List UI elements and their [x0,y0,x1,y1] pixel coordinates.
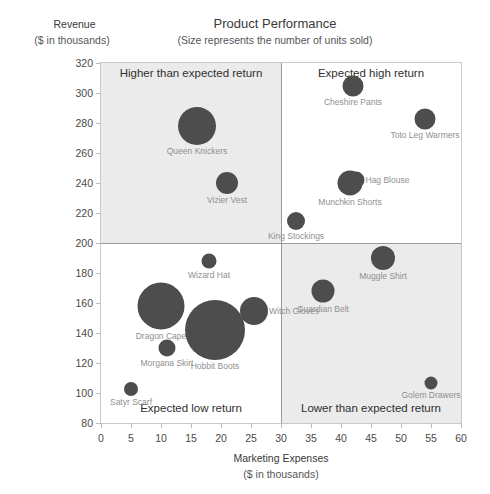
x-axis-tick-label: 45 [365,432,377,444]
bubble-label: Hobbit Boots [191,361,240,371]
quadrant-divider-horizontal [101,243,461,244]
y-axis-tick [96,213,101,214]
y-axis-tick [96,183,101,184]
y-axis-tick-label: 100 [75,387,93,399]
bubble-point[interactable] [159,340,176,357]
bubble-label: Morgana Skirt [141,358,194,368]
bubble-point[interactable] [216,172,238,194]
chart-title: Product Performance [150,16,400,31]
bubble-point[interactable] [240,297,268,325]
bubble-label: Witch Gloves [269,306,319,316]
x-axis-tick-label: 10 [155,432,167,444]
y-axis-title: Revenue [22,18,127,30]
x-axis-tick [311,423,312,428]
bubble-label: King Stockings [268,231,324,241]
bubble-label: Queen Knickers [167,146,227,156]
x-axis-tick [371,423,372,428]
bubble-label: Vizier Vest [207,195,247,205]
quadrant-top-right [281,63,461,243]
x-axis-tick [101,423,102,428]
y-axis-subtitle: ($ in thousands) [12,34,132,46]
bubble-point[interactable] [202,254,217,269]
y-axis-tick [96,393,101,394]
y-axis-tick-label: 300 [75,87,93,99]
x-axis-tick-label: 50 [395,432,407,444]
y-axis-tick [96,363,101,364]
bubble-label: Golem Drawers [401,390,460,400]
bubble-label: Satyr Scarf [110,397,152,407]
y-axis-tick-label: 140 [75,327,93,339]
bubble-point[interactable] [338,171,363,196]
x-axis-tick [431,423,432,428]
x-axis-tick-label: 60 [455,432,467,444]
y-axis-tick-label: 120 [75,357,93,369]
bubble-point[interactable] [312,280,335,303]
bubble-point[interactable] [425,376,438,389]
bubble-label: Toto Leg Warmers [390,130,459,140]
x-axis-tick [131,423,132,428]
x-axis-tick [281,423,282,428]
bubble-chart: Revenue ($ in thousands) Product Perform… [0,0,490,494]
chart-subtitle: (Size represents the number of units sol… [130,34,420,46]
x-axis-tick [461,423,462,428]
x-axis-tick-label: 5 [128,432,134,444]
y-axis-tick [96,333,101,334]
y-axis-tick [96,153,101,154]
quadrant-label-bottom-right: Lower than expected return [281,402,461,414]
x-axis-tick [161,423,162,428]
y-axis-tick-label: 160 [75,297,93,309]
bubble-label: Hag Blouse [366,175,410,185]
y-axis-tick-label: 80 [81,417,93,429]
y-axis-tick-label: 280 [75,117,93,129]
bubble-point[interactable] [178,107,216,145]
x-axis-tick-label: 35 [305,432,317,444]
bubble-point[interactable] [415,108,436,129]
bubble-point[interactable] [124,382,138,396]
bubble-label: Cheshire Pants [324,97,382,107]
bubble-point[interactable] [185,300,245,360]
x-axis-tick-label: 40 [335,432,347,444]
y-axis-tick [96,303,101,304]
plot-area: Higher than expected returnExpected high… [100,62,462,424]
bubble-label: Munchkin Shorts [318,197,381,207]
y-axis-tick-label: 200 [75,237,93,249]
y-axis-tick [96,93,101,94]
x-axis-tick-label: 20 [215,432,227,444]
x-axis-tick-label: 0 [98,432,104,444]
y-axis-tick-label: 220 [75,207,93,219]
x-axis-tick [251,423,252,428]
y-axis-tick-label: 180 [75,267,93,279]
bubble-point[interactable] [138,283,185,330]
bubble-point[interactable] [343,75,364,96]
y-axis-tick-label: 320 [75,57,93,69]
x-axis-title: Marketing Expenses [181,452,381,464]
x-axis-tick [221,423,222,428]
bubble-point[interactable] [287,212,305,230]
quadrant-label-top-left: Higher than expected return [101,67,281,79]
y-axis-tick-label: 240 [75,177,93,189]
y-axis-tick [96,273,101,274]
x-axis-tick-label: 55 [425,432,437,444]
bubble-label: Wizard Hat [188,270,230,280]
quadrant-label-top-right: Expected high return [281,67,461,79]
y-axis-tick-label: 260 [75,147,93,159]
bubble-label: Dragon Cape [136,331,187,341]
x-axis-tick [341,423,342,428]
y-axis-tick [96,63,101,64]
bubble-point[interactable] [371,246,395,270]
x-axis-subtitle: ($ in thousands) [181,468,381,480]
y-axis-tick [96,123,101,124]
y-axis-tick [96,243,101,244]
x-axis-tick-label: 15 [185,432,197,444]
x-axis-tick-label: 30 [275,432,287,444]
x-axis-tick [191,423,192,428]
x-axis-tick [401,423,402,428]
bubble-label: Muggle Shirt [359,271,407,281]
x-axis-tick-label: 25 [245,432,257,444]
